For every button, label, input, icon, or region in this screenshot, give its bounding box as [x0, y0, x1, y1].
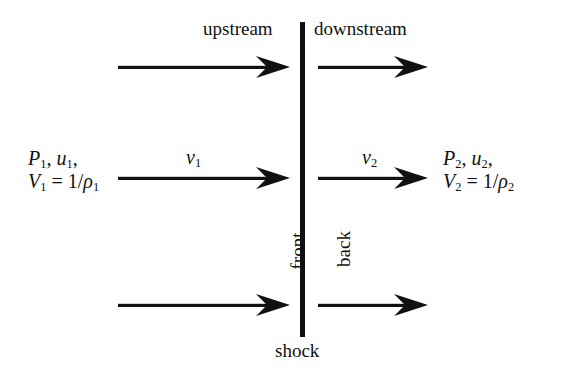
downstream-arrow-bottom — [318, 292, 432, 318]
upstream-label: upstream — [203, 19, 273, 39]
downstream-pressure-symbol: P — [443, 147, 455, 169]
downstream-density-symbol: ρ — [498, 170, 508, 192]
shock-front-diagram: upstream downstream — [0, 0, 561, 377]
downstream-velocity-symbol: u — [471, 147, 481, 169]
upstream-density-symbol: ρ — [83, 170, 93, 192]
shock-label-text: shock — [275, 340, 319, 361]
downstream-state-line1: P2, u2, — [443, 148, 514, 171]
back-label: back — [333, 209, 355, 289]
v1-subscript: 1 — [195, 156, 201, 170]
velocity-label-v1: v1 — [186, 146, 201, 171]
upstream-state-line2: V1 = 1/ρ1 — [28, 171, 99, 194]
front-label: front — [287, 211, 309, 291]
back-label-text: back — [333, 231, 354, 267]
upstream-volume-equals: = 1/ — [46, 170, 83, 192]
upstream-velocity-symbol: u — [56, 147, 66, 169]
upstream-state-line1: P1, u1, — [28, 148, 99, 171]
velocity-label-v2: v2 — [362, 146, 377, 171]
v2-symbol: v — [362, 146, 371, 168]
upstream-volume-symbol: V — [28, 170, 40, 192]
v2-subscript: 2 — [371, 156, 377, 170]
downstream-comma-2: , — [488, 147, 493, 169]
upstream-label-text: upstream — [203, 18, 273, 39]
downstream-comma-1: , — [461, 147, 471, 169]
downstream-arrow-top — [318, 54, 432, 80]
upstream-comma-2: , — [73, 147, 78, 169]
upstream-state-label: P1, u1, V1 = 1/ρ1 — [28, 148, 99, 195]
upstream-arrow-middle — [118, 165, 294, 191]
upstream-pressure-symbol: P — [28, 147, 40, 169]
upstream-density-subscript: 1 — [93, 181, 99, 195]
downstream-density-subscript: 2 — [508, 181, 514, 195]
upstream-arrow-bottom — [118, 292, 294, 318]
downstream-label: downstream — [314, 19, 407, 39]
upstream-comma-1: , — [46, 147, 56, 169]
downstream-volume-symbol: V — [443, 170, 455, 192]
downstream-state-label: P2, u2, V2 = 1/ρ2 — [443, 148, 514, 195]
v1-symbol: v — [186, 146, 195, 168]
downstream-label-text: downstream — [314, 18, 407, 39]
downstream-state-line2: V2 = 1/ρ2 — [443, 171, 514, 194]
shock-label: shock — [275, 341, 319, 361]
downstream-volume-equals: = 1/ — [461, 170, 498, 192]
upstream-arrow-top — [118, 54, 294, 80]
front-label-text: front — [287, 233, 308, 270]
